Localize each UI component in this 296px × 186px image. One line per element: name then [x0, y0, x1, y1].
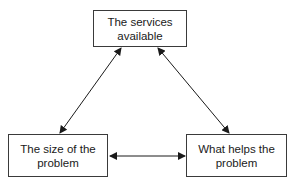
node-label-line: The services: [107, 15, 172, 29]
node-label-line: problem: [198, 156, 275, 170]
node-services-available: The services available: [93, 10, 187, 47]
node-what-helps-problem: What helps the problem: [186, 134, 287, 177]
node-label-line: The size of the: [20, 142, 95, 156]
node-label-line: What helps the: [198, 142, 275, 156]
arrow-services-size: [60, 48, 121, 133]
arrow-services-helps: [158, 48, 229, 133]
node-label-line: available: [107, 29, 172, 43]
node-label-line: problem: [20, 156, 95, 170]
node-size-of-problem: The size of the problem: [8, 134, 108, 177]
